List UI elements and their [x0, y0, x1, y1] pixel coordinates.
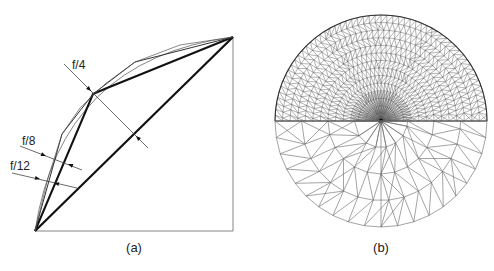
arrowhead-icon [41, 152, 46, 156]
arrowhead-icon [68, 164, 73, 168]
caption-b: (b) [373, 240, 389, 255]
panel-b-hemisphere-mesh [275, 15, 487, 227]
annotation-label: f/4 [72, 58, 86, 72]
panel-a-arc-approximation: f/4f/8f/12 [10, 37, 233, 231]
annotation-f-12: f/12 [10, 159, 77, 188]
figure: f/4f/8f/12 (a) (b) [0, 0, 494, 271]
lower-coarse-mesh [275, 121, 487, 227]
annotation-label: f/8 [22, 134, 36, 148]
annotation-label: f/12 [10, 159, 30, 173]
dimension-line [12, 173, 77, 188]
caption-a: (a) [126, 240, 142, 255]
upper-dense-mesh [275, 15, 487, 121]
